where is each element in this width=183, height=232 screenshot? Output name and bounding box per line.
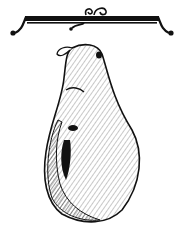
- ham-engraving: [0, 0, 183, 232]
- illustration: [0, 0, 183, 232]
- hanging-bar: [10, 8, 173, 35]
- ham: [45, 45, 140, 222]
